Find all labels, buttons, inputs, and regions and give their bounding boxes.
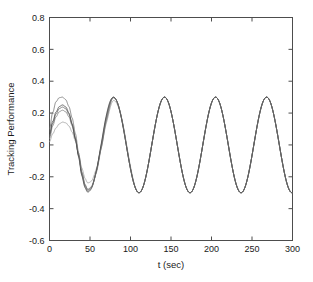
x-tick-label: 100	[123, 244, 138, 254]
y-tick-label: 0	[39, 140, 44, 150]
x-tick-label: 150	[163, 244, 178, 254]
x-tick-label: 250	[244, 244, 259, 254]
y-tick-label: -0.6	[29, 236, 45, 246]
x-tick-label: 50	[85, 244, 95, 254]
x-tick-label: 300	[285, 244, 300, 254]
x-axis-title: t (sec)	[158, 259, 184, 270]
chart-background	[0, 0, 313, 282]
y-axis-title: Tracking Performance	[5, 82, 16, 175]
tracking-performance-chart: 050100150200250300 -0.6-0.4-0.200.20.40.…	[0, 0, 313, 282]
y-tick-label: 0.8	[32, 13, 45, 23]
x-tick-label: 0	[47, 244, 52, 254]
y-tick-label: -0.4	[29, 204, 45, 214]
y-tick-label: -0.2	[29, 172, 45, 182]
y-tick-label: 0.2	[32, 108, 45, 118]
x-tick-label: 200	[204, 244, 219, 254]
figure-canvas: 050100150200250300 -0.6-0.4-0.200.20.40.…	[0, 0, 313, 282]
y-tick-label: 0.6	[32, 45, 45, 55]
y-tick-label: 0.4	[32, 76, 45, 86]
